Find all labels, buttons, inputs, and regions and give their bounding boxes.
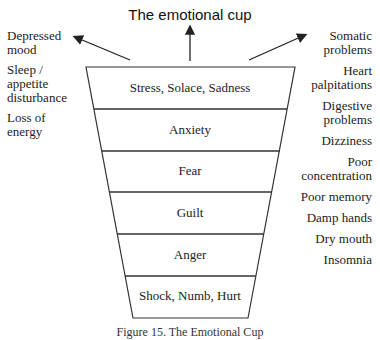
cup-layer-guilt: Guilt xyxy=(0,205,380,221)
cup-layer-anger: Anger xyxy=(0,247,380,263)
cup-layer-shock-numb-hurt: Shock, Numb, Hurt xyxy=(0,288,380,304)
arrow-left-icon xyxy=(75,37,130,60)
cup-layer-fear: Fear xyxy=(0,163,380,179)
cup-layer-stress-solace-sadness: Stress, Solace, Sadness xyxy=(0,80,380,96)
figure-caption: Figure 15. The Emotional Cup xyxy=(0,325,380,340)
arrow-right-icon xyxy=(249,35,305,60)
cup-layer-anxiety: Anxiety xyxy=(0,122,380,138)
